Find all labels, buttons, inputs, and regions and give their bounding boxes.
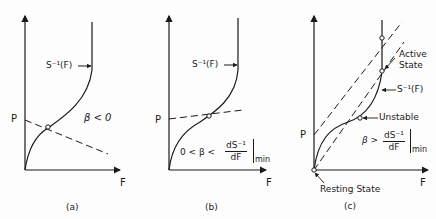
active-state-arrow xyxy=(385,58,395,69)
curve-label-b: S⁻¹(F) xyxy=(192,60,218,69)
f-axis-label-c: F xyxy=(420,178,426,188)
condition-prefix-b: 0 < β < xyxy=(180,148,215,157)
f-axis-label-b: F xyxy=(266,178,272,188)
condition-prefix-c: β > xyxy=(362,136,378,145)
inverse-sigmoid-curve xyxy=(25,22,92,170)
evaluation-bar-b xyxy=(253,139,254,163)
upper-intersection-point xyxy=(380,36,384,40)
unstable-label: Unstable xyxy=(379,113,419,122)
equilibrium-point xyxy=(207,114,211,118)
active-state-point xyxy=(380,69,384,73)
panel-a xyxy=(25,16,120,170)
derivative-fraction-b: dS⁻¹ dF xyxy=(225,141,247,162)
condition-label-a: β < 0 xyxy=(84,113,111,123)
p-axis-label-b: P xyxy=(155,115,161,125)
resting-state-label: Resting State xyxy=(320,185,380,194)
caption-b: (b) xyxy=(205,203,218,212)
active-state-label-line2: State xyxy=(399,61,423,70)
panel-c xyxy=(312,16,428,183)
curve-label-a: S⁻¹(F) xyxy=(46,61,72,70)
fraction-denominator: dF xyxy=(388,142,399,152)
derivative-fraction-c: dS⁻¹ dF xyxy=(383,131,405,152)
curve-label-c: S⁻¹(F) xyxy=(397,85,423,94)
equilibrium-point xyxy=(46,125,50,129)
min-subscript-b: min xyxy=(255,156,270,164)
resting-state-arrow xyxy=(315,173,324,183)
active-state-label-line1: Active xyxy=(399,50,427,59)
fraction-numerator: dS⁻¹ xyxy=(383,131,405,142)
p-axis-label-c: P xyxy=(300,130,306,140)
caption-a: (a) xyxy=(66,203,79,212)
evaluation-bar-c xyxy=(410,129,411,153)
f-axis-label-a: F xyxy=(120,178,126,188)
unstable-point xyxy=(358,116,362,120)
fraction-numerator: dS⁻¹ xyxy=(225,141,247,152)
resting-state-point xyxy=(312,168,316,172)
caption-c: (c) xyxy=(344,202,356,211)
fraction-denominator: dF xyxy=(230,152,241,162)
p-axis-label-a: P xyxy=(11,114,17,124)
inverse-sigmoid-curve xyxy=(314,20,382,170)
min-subscript-c: min xyxy=(412,146,427,154)
